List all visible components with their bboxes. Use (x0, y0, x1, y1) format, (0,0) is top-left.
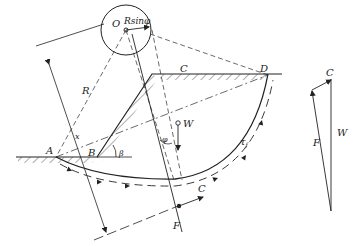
slope-diagram: O Rsinφ R x A B C D β φ W τf C F C F W (0, 0, 356, 246)
label-B: B (87, 147, 95, 158)
diagram-canvas: O Rsinφ R x A B C D β φ W τf C F C F W (0, 0, 356, 246)
line-of-action-F (132, 34, 182, 232)
ground-profile (16, 74, 282, 163)
polygon-label-C: C (326, 67, 334, 78)
label-W: W (183, 118, 194, 129)
label-D: D (259, 63, 268, 74)
label-F-force: F (172, 220, 181, 231)
label-Rsin-phi: Rsinφ (123, 16, 151, 26)
polygon-label-F: F (312, 137, 321, 148)
label-tau-f: τf (240, 136, 250, 149)
weight-force (176, 121, 180, 150)
label-R: R (81, 85, 90, 96)
label-beta: β (118, 149, 124, 158)
label-phi: φ (162, 135, 168, 144)
label-C: C (180, 63, 188, 74)
label-x: x (75, 132, 80, 141)
force-polygon: C F W (312, 67, 348, 211)
polygon-label-W: W (337, 127, 348, 138)
label-O: O (112, 18, 120, 29)
label-A: A (45, 145, 53, 156)
cohesion-force (177, 197, 203, 208)
label-C-force: C (198, 183, 206, 194)
